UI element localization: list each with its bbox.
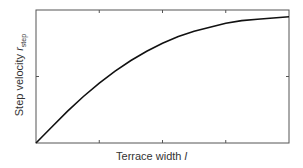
data-line (36, 17, 289, 143)
y-axis-label: Step velocity rstep (13, 15, 27, 135)
x-axis-label: Terrace width l (0, 150, 303, 162)
axis-ticks (36, 10, 289, 143)
plot-frame (36, 10, 289, 143)
chart-plot (0, 0, 303, 168)
